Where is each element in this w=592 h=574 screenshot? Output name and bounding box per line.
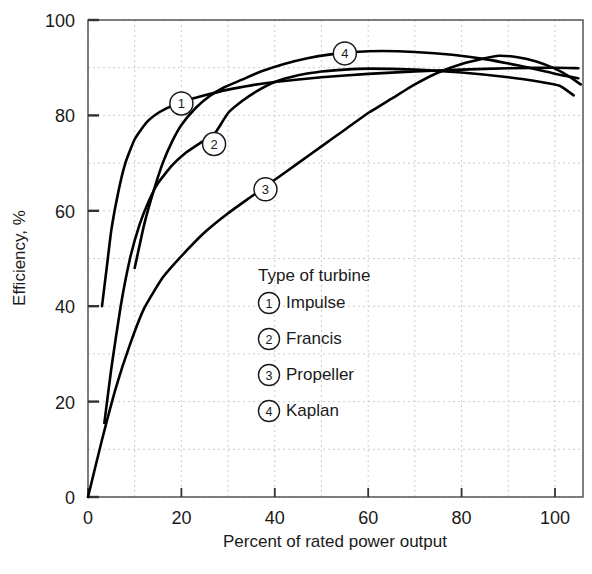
svg-text:1: 1 (178, 96, 185, 111)
svg-text:3: 3 (262, 182, 269, 197)
x-tick-label-80: 80 (452, 508, 472, 528)
y-tick-label-20: 20 (55, 393, 75, 413)
y-axis-title: Efficiency, % (10, 210, 29, 306)
marker-kaplan: 4 (333, 42, 356, 65)
legend-label-francis: Francis (286, 329, 342, 348)
chart-figure: 020406080100020406080100 1234 Type of tu… (0, 0, 592, 574)
legend-item-propeller: 3Propeller (259, 365, 355, 386)
legend-marker-4: 4 (266, 405, 273, 419)
marker-propeller: 3 (254, 178, 277, 201)
x-tick-label-0: 0 (83, 508, 93, 528)
x-tick-label-100: 100 (540, 508, 570, 528)
marker-francis: 2 (203, 133, 226, 156)
legend-item-impulse: 1Impulse (259, 293, 346, 314)
x-axis-title: Percent of rated power output (223, 532, 447, 551)
marker-impulse: 1 (170, 92, 193, 115)
chart-canvas: 020406080100020406080100 1234 Type of tu… (0, 0, 592, 574)
svg-text:4: 4 (341, 46, 348, 61)
legend-item-francis: 2Francis (259, 329, 342, 350)
legend-label-impulse: Impulse (286, 293, 346, 312)
legend-item-kaplan: 4Kaplan (259, 401, 339, 422)
legend-marker-3: 3 (266, 369, 273, 383)
y-tick-label-60: 60 (55, 202, 75, 222)
y-tick-label-0: 0 (65, 488, 75, 508)
x-tick-label-40: 40 (265, 508, 285, 528)
legend-title: Type of turbine (258, 266, 370, 285)
y-tick-label-40: 40 (55, 297, 75, 317)
legend-marker-2: 2 (266, 333, 273, 347)
legend-marker-1: 1 (266, 297, 273, 311)
y-tick-label-100: 100 (45, 11, 75, 31)
y-tick-label-80: 80 (55, 106, 75, 126)
svg-text:2: 2 (210, 137, 217, 152)
figure-background (0, 0, 592, 574)
legend-label-propeller: Propeller (286, 365, 354, 384)
x-tick-label-60: 60 (358, 508, 378, 528)
x-tick-label-20: 20 (171, 508, 191, 528)
legend-label-kaplan: Kaplan (286, 401, 339, 420)
